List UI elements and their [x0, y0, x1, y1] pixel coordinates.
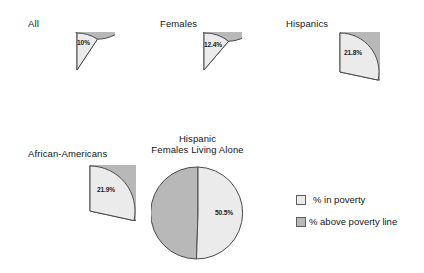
pie-slices-hispanics	[340, 32, 380, 80]
slice-value-hispanics: 21.8%	[344, 49, 362, 56]
pie-title-hispanics: Hispanics	[286, 18, 328, 29]
pie-chart-figure: All 10% Females 12.4% Hispanics 2	[0, 0, 424, 273]
legend-swatch-above-poverty-line	[296, 217, 306, 227]
slice-in-poverty-females	[204, 33, 229, 70]
pie-title-hispanic-females-living-alone-line1: Hispanic	[130, 133, 265, 144]
pie-graphic-females: 12.4%	[166, 32, 242, 108]
pie-graphic-all: 10%	[39, 32, 115, 108]
legend-item-above-poverty-line: % above poverty line	[296, 213, 420, 230]
pie-slices-females	[190, 32, 242, 70]
pie-slices-all	[60, 32, 115, 70]
pie-title-african-americans: African-Americans	[28, 148, 107, 159]
legend-item-in-poverty: % in poverty	[296, 191, 420, 208]
pie-title-all: All	[28, 18, 39, 29]
legend-label-above-poverty-line: % above poverty line	[309, 216, 397, 227]
pie-graphic-hispanic-females-living-alone: 50.5%	[151, 166, 245, 260]
pie-graphic-hispanics: 21.8%	[300, 32, 380, 112]
legend-label-in-poverty: % in poverty	[313, 194, 365, 205]
pie-graphic-african-americans: 21.9%	[44, 165, 136, 257]
slice-value-african-americans: 21.9%	[97, 186, 115, 193]
legend: % in poverty % above poverty line	[296, 191, 420, 235]
slice-value-hispanic-females-living-alone: 50.5%	[215, 209, 233, 216]
slice-value-females: 12.4%	[204, 41, 222, 48]
pie-title-females: Females	[160, 18, 197, 29]
slice-value-all: 10%	[77, 39, 90, 46]
legend-swatch-in-poverty	[296, 195, 306, 205]
slice-above-poverty-hispanic-females-living-alone	[151, 167, 198, 259]
pie-title-hispanic-females-living-alone-line2: Females Living Alone	[130, 144, 265, 155]
